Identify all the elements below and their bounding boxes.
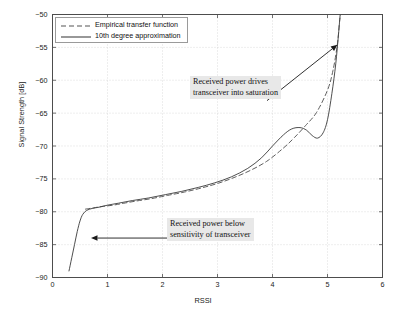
legend-label-approximation: 10th degree approximation [95, 31, 181, 40]
svg-text:5: 5 [326, 280, 330, 289]
legend-label-empirical: Empirical transfer function [95, 20, 178, 29]
chart-figure: 0123456−90−85−80−75−70−65−60−55−50 Signa… [0, 0, 406, 318]
annotation-saturation-line1: Received power drives [193, 77, 278, 88]
annotation-sensitivity-line1: Received power below [170, 219, 251, 230]
svg-text:1: 1 [106, 280, 110, 289]
svg-text:−90: −90 [35, 273, 47, 282]
svg-text:4: 4 [271, 280, 275, 289]
svg-text:−70: −70 [35, 142, 47, 151]
svg-text:2: 2 [161, 280, 165, 289]
legend-swatch-solid [61, 36, 91, 38]
svg-text:−65: −65 [35, 109, 47, 118]
chart-canvas: 0123456−90−85−80−75−70−65−60−55−50 [0, 0, 406, 318]
annotation-sensitivity: Received power below sensitivity of tran… [167, 218, 254, 241]
legend-item-approximation: 10th degree approximation [56, 31, 189, 43]
annotation-arrows [91, 45, 337, 241]
svg-text:3: 3 [216, 280, 220, 289]
svg-text:−50: −50 [35, 10, 47, 19]
annotation-saturation: Received power drives transceiver into s… [190, 76, 281, 99]
annotation-sensitivity-line2: sensitivity of transceiver [170, 230, 251, 241]
y-axis-label: Signal Strength [dB] [17, 60, 26, 170]
axis-tick-labels: 0123456−90−85−80−75−70−65−60−55−50 [35, 10, 384, 289]
svg-text:−85: −85 [35, 240, 47, 249]
svg-text:0: 0 [51, 280, 55, 289]
chart-legend: Empirical transfer function 10th degree … [55, 17, 188, 43]
svg-text:−55: −55 [35, 43, 47, 52]
x-axis-label: RSSI [0, 296, 406, 305]
svg-text:6: 6 [381, 280, 385, 289]
svg-text:−80: −80 [35, 207, 47, 216]
svg-text:−60: −60 [35, 76, 47, 85]
svg-text:−75: −75 [35, 174, 47, 183]
annotation-saturation-line2: transceiver into saturation [193, 88, 278, 99]
legend-swatch-dashed [61, 25, 91, 27]
